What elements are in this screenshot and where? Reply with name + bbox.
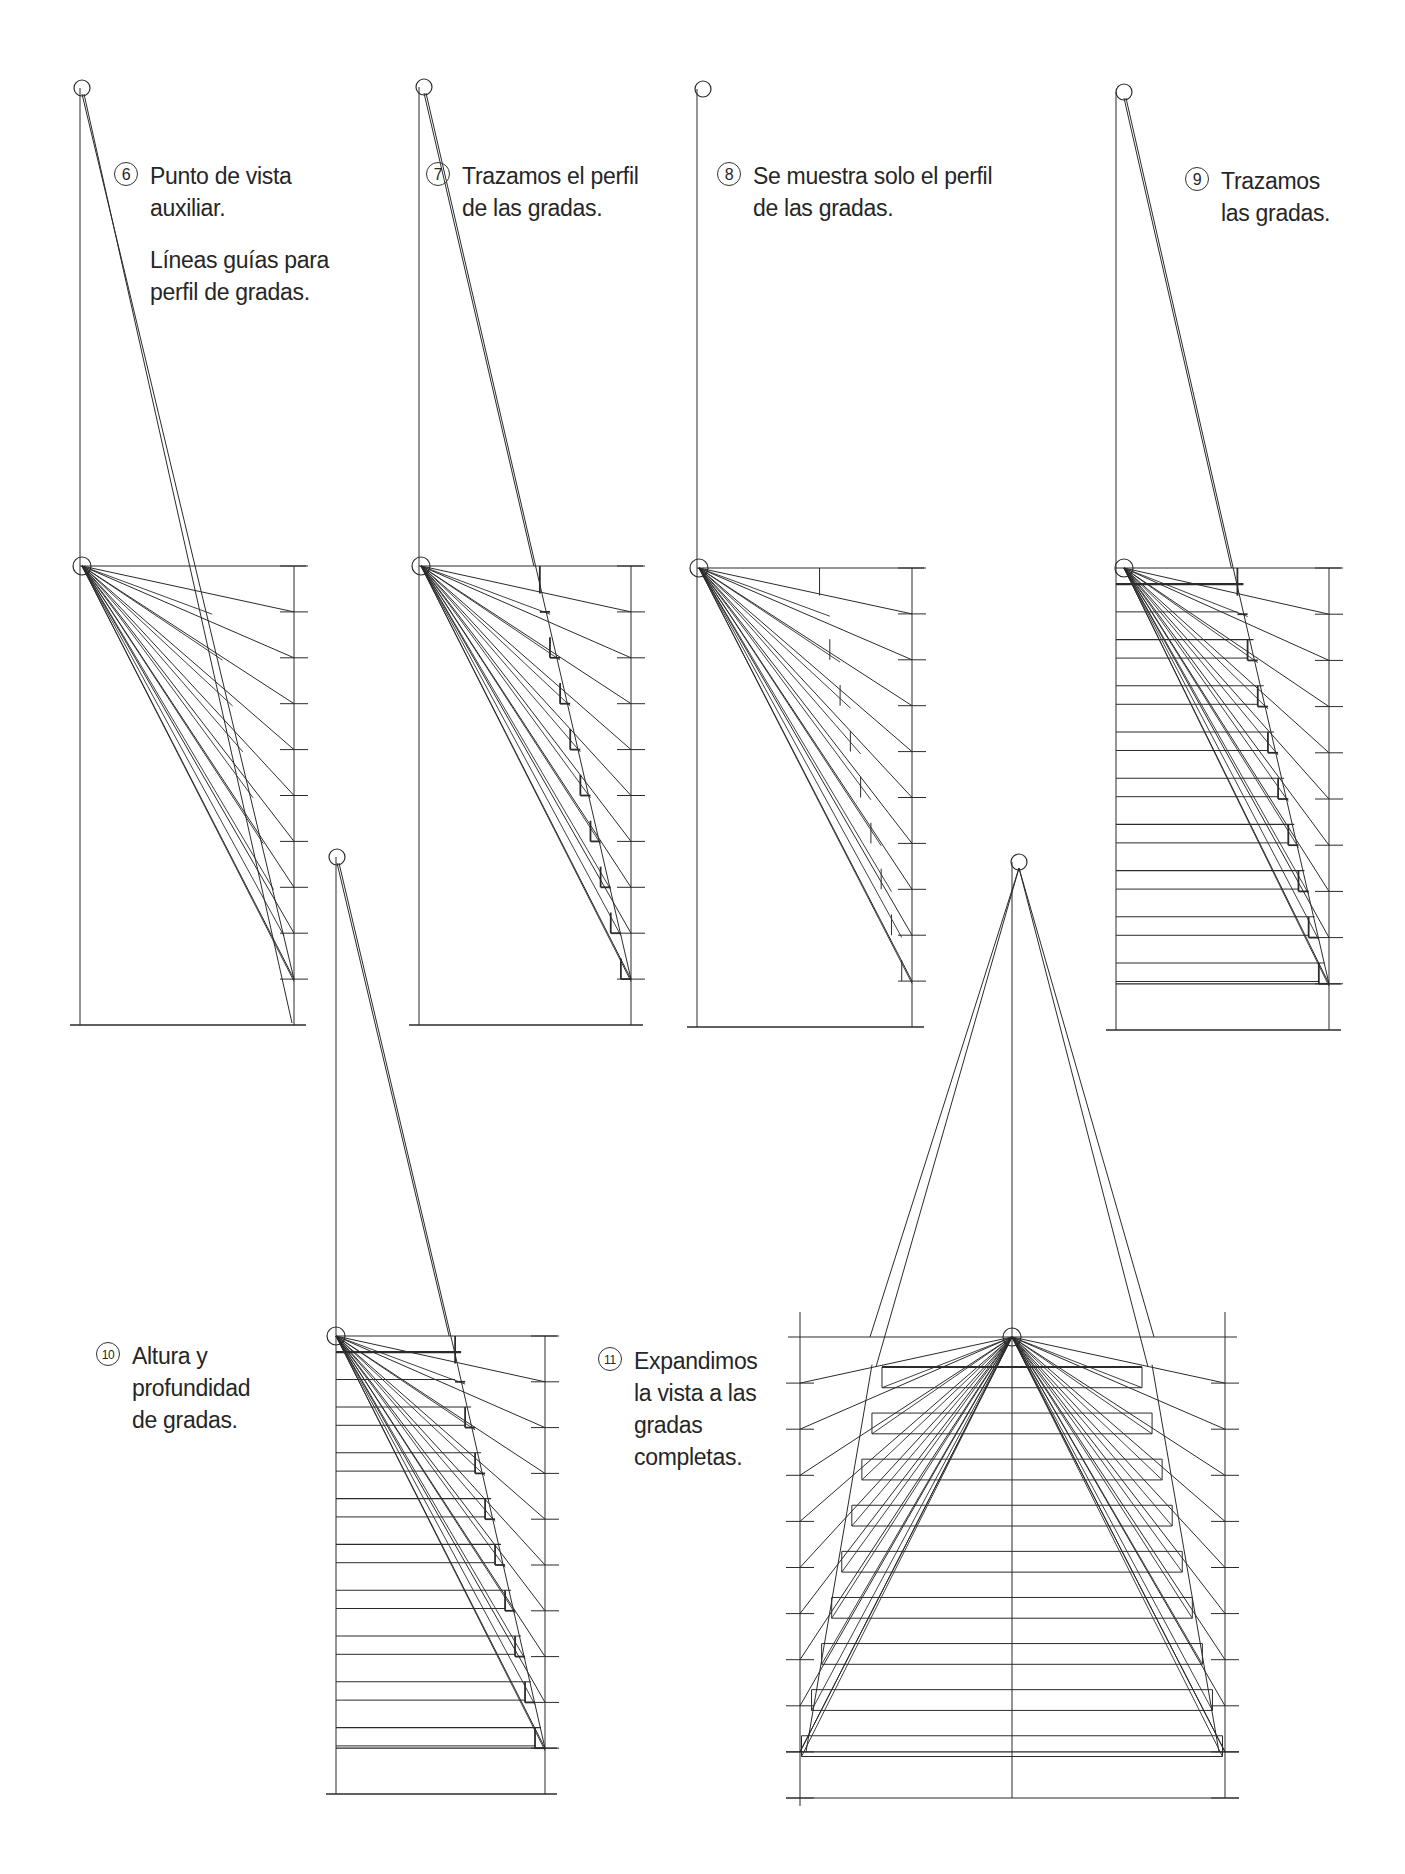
guide-ray <box>336 1336 545 1428</box>
guide-ray <box>1124 568 1309 894</box>
caption-line: completas. <box>634 1441 758 1473</box>
guide-ray <box>336 1336 545 1750</box>
guide-ray <box>421 566 621 935</box>
guide-ray <box>82 566 294 704</box>
guide-ray <box>1012 1337 1225 1429</box>
profile-slope <box>1237 586 1329 983</box>
guide-ray <box>699 568 891 892</box>
guide-ray <box>82 566 294 796</box>
guide-ray <box>802 1337 1013 1757</box>
caption-line: las gradas. <box>1221 197 1330 229</box>
sight-line <box>1124 98 1231 568</box>
guide-ray <box>82 566 253 798</box>
guide-ray <box>800 1337 1012 1475</box>
guide-ray <box>699 568 881 846</box>
profile-slope <box>540 584 631 979</box>
caption-line: de las gradas. <box>462 192 639 224</box>
guide-ray <box>699 568 912 843</box>
guide-ray <box>336 1336 545 1565</box>
guide-ray <box>82 566 294 658</box>
caption-line: perfil de gradas. <box>150 276 329 308</box>
guide-ray <box>862 1337 1012 1480</box>
guide-ray <box>82 566 294 750</box>
caption-line: Líneas guías para <box>150 244 329 276</box>
guide-ray <box>812 1337 1012 1710</box>
caption-line: Expandimos <box>634 1345 758 1377</box>
guide-ray <box>832 1337 1012 1618</box>
guide-ray <box>1124 568 1298 848</box>
step-number-badge: 11 <box>598 1347 622 1371</box>
guide-ray <box>1012 1337 1225 1383</box>
guide-ray <box>421 566 631 750</box>
caption-step-11: 11Expandimosla vista a lasgradascompleta… <box>634 1345 758 1473</box>
guide-ray <box>421 566 631 933</box>
guide-ray <box>336 1336 515 1613</box>
caption-step-8: 8Se muestra solo el perfilde las gradas. <box>753 160 992 224</box>
guide-ray <box>699 568 871 800</box>
guide-ray <box>421 566 570 706</box>
caption-line: Se muestra solo el perfil <box>753 160 992 192</box>
guide-ray <box>1124 568 1329 614</box>
guide-ray <box>336 1336 535 1705</box>
panel-10 <box>326 849 559 1794</box>
guide-ray <box>699 568 912 752</box>
guide-ray <box>421 566 631 658</box>
guide-ray <box>699 568 912 798</box>
sight-line <box>870 868 1019 1337</box>
guide-ray <box>421 566 631 841</box>
caption-line: gradas <box>634 1409 758 1441</box>
caption-spacer <box>150 224 329 244</box>
guide-ray <box>421 566 611 890</box>
guide-ray <box>1012 1337 1225 1475</box>
caption-line: de gradas. <box>132 1404 250 1436</box>
guide-ray <box>1012 1337 1182 1572</box>
guide-ray <box>699 568 912 706</box>
guide-ray <box>82 566 233 706</box>
guide-ray <box>336 1336 525 1659</box>
viewpoint-circle-icon <box>329 849 345 865</box>
guide-ray <box>336 1336 505 1567</box>
viewpoint-circle-icon <box>74 80 90 96</box>
guide-ray <box>1012 1337 1225 1660</box>
guide-ray <box>800 1337 1012 1383</box>
guide-ray <box>800 1337 1012 1429</box>
guide-ray <box>82 566 222 660</box>
step-number-badge: 6 <box>114 162 138 186</box>
guide-ray <box>336 1336 545 1519</box>
guide-ray <box>421 566 601 844</box>
guide-ray <box>1124 568 1268 709</box>
step-number-badge: 8 <box>717 162 741 186</box>
guide-ray <box>421 566 631 796</box>
guide-ray <box>82 566 294 981</box>
guide-ray <box>1124 568 1329 753</box>
caption-line: Punto de vista <box>150 160 329 192</box>
caption-line: profundidad <box>132 1372 250 1404</box>
guide-ray <box>842 1337 1012 1572</box>
guide-ray <box>82 566 284 935</box>
caption-line: Trazamos el perfil <box>462 160 639 192</box>
guide-ray <box>699 568 912 935</box>
guide-ray <box>1012 1337 1162 1480</box>
guide-ray <box>421 566 590 798</box>
guide-ray <box>1012 1337 1225 1568</box>
caption-step-9: 9Trazamoslas gradas. <box>1221 165 1330 229</box>
caption-step-6: 6Punto de vistaauxiliar.Líneas guías par… <box>150 160 329 308</box>
caption-line: auxiliar. <box>150 192 329 224</box>
caption-step-10: 10Altura yprofundidadde gradas. <box>132 1340 250 1436</box>
sight-line <box>337 863 449 1336</box>
guide-ray <box>1012 1337 1225 1706</box>
guide-ray <box>1124 568 1288 801</box>
sight-line <box>876 868 1019 1367</box>
sight-line <box>1019 868 1154 1337</box>
caption-line: de las gradas. <box>753 192 992 224</box>
guide-ray <box>421 566 631 704</box>
guide-ray <box>82 566 294 933</box>
guide-ray <box>1012 1337 1192 1618</box>
sight-line <box>1019 868 1148 1367</box>
sight-line <box>339 863 455 1354</box>
viewpoint-circle-icon <box>416 79 432 95</box>
profile-slope <box>455 1354 545 1748</box>
guide-ray <box>699 568 902 937</box>
guide-ray <box>1124 568 1329 660</box>
guide-ray <box>800 1337 1012 1568</box>
